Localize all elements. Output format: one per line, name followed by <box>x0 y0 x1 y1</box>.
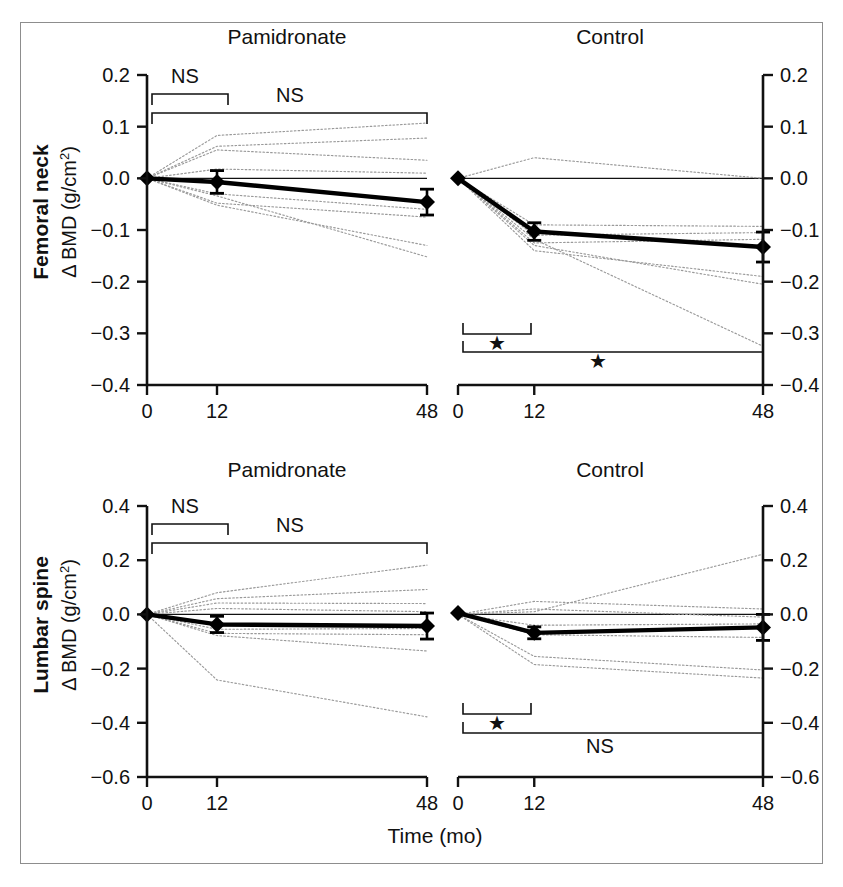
figure-root: Pamidronate0.20.10.0−0.1−0.2−0.3−0.40124… <box>0 0 843 887</box>
figure-border <box>20 22 823 864</box>
